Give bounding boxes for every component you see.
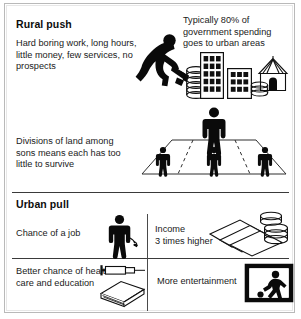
rural-reasons-text: Hard boring work, long hours, little mon… (16, 38, 138, 73)
land-division-text: Divisions of land among sons means each … (16, 136, 134, 171)
syringe-and-book-icon (97, 262, 149, 310)
urban-section-divider (12, 192, 289, 193)
rural-hut-icon (250, 57, 294, 101)
short-office-building-icon (227, 68, 252, 99)
urban-pull-heading: Urban pull (16, 198, 69, 210)
television-football-icon (244, 264, 294, 308)
tall-office-building-icon (200, 52, 224, 99)
income-label-line1: Income (155, 224, 185, 234)
worker-figure-icon (104, 214, 140, 258)
divided-field-diagram (134, 106, 294, 180)
entertainment-label: More entertainment (157, 276, 237, 288)
urban-row-divider (12, 258, 289, 259)
chance-of-job-label: Chance of a job (16, 228, 111, 240)
government-spending-text: Typically 80% of government spending goe… (183, 15, 293, 50)
money-notes-and-coins-icon (204, 208, 292, 256)
infographic-sheet: Rural push Hard boring work, long hours,… (0, 0, 301, 319)
rural-push-heading: Rural push (16, 18, 72, 30)
farmer-hoeing-icon (134, 30, 190, 88)
